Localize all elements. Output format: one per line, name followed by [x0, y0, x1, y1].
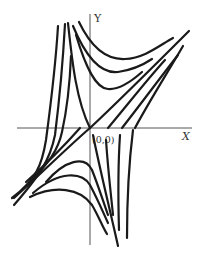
upper-saddle-trajectories — [73, 22, 173, 89]
right-diagonal-trajectories — [90, 31, 189, 128]
trajectory — [90, 31, 189, 128]
trajectory — [14, 128, 90, 198]
trajectory — [12, 26, 58, 198]
y-axis-label: Y — [93, 12, 102, 25]
trajectory — [127, 130, 133, 238]
trajectory — [79, 22, 173, 59]
trajectory — [106, 140, 113, 215]
phase-portrait-diagram: Y X (0,0) — [0, 0, 204, 258]
trajectory — [76, 35, 142, 89]
left-diagonal-trajectories — [14, 128, 90, 198]
trajectory — [118, 135, 120, 230]
trajectory — [122, 55, 178, 128]
trajectory — [108, 60, 165, 128]
trajectory — [46, 161, 108, 215]
x-axis-label: X — [181, 130, 191, 143]
